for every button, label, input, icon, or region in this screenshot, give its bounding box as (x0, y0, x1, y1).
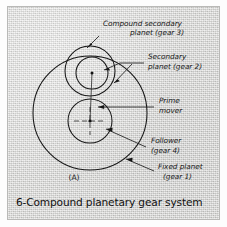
secondary-planet-hub-mark (91, 72, 94, 75)
label-secondary-planet-line2: planet (gear 2) (147, 62, 202, 71)
label-fixed-planet-line1: Fixed planet (158, 162, 204, 171)
label-follower-line2: (gear 4) (151, 146, 180, 155)
leader-secondary-planet (104, 63, 144, 83)
label-secondary-planet-line1: Secondary (148, 52, 187, 61)
label-compound-secondary-planet-line2: planet (gear 3) (129, 28, 184, 37)
label-compound-secondary-planet-line1: Compound secondary (103, 19, 183, 28)
carrier-arm-line (90, 73, 92, 121)
gear-diagram-svg: Compound secondary planet (gear 3) Secon… (8, 7, 220, 220)
leader-prime-mover (98, 105, 154, 109)
panel-label: (A) (68, 173, 79, 182)
label-prime-mover-line1: Prime (159, 96, 180, 105)
illustration-plate: Compound secondary planet (gear 3) Secon… (7, 6, 220, 220)
leader-follower (106, 128, 146, 147)
follower-hub-crosshair (74, 107, 106, 135)
figure-caption: 6-Compound planetary gear system (16, 196, 202, 208)
label-prime-mover-line2: mover (159, 106, 183, 115)
label-follower-line1: Follower (151, 136, 182, 145)
leader-fixed-planet (126, 158, 154, 171)
figure-root: Compound secondary planet (gear 3) Secon… (0, 0, 227, 227)
label-fixed-planet-line2: (gear 1) (163, 172, 192, 181)
